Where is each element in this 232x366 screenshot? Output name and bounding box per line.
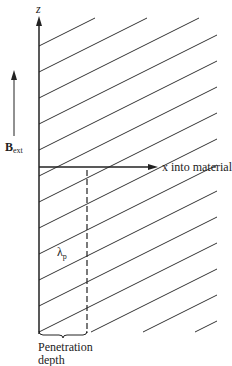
field-line [39, 139, 217, 228]
x-axis-label: x into material [162, 160, 232, 174]
bext-arrowhead [11, 70, 17, 80]
depth-brace [39, 331, 87, 338]
field-line [195, 321, 217, 332]
bext-label: Bext [5, 140, 24, 155]
field-line [39, 113, 217, 202]
field-line [39, 18, 95, 46]
penetration-depth-diagram: z x into material Bext λp Penetration de… [0, 0, 232, 366]
field-line [39, 18, 147, 72]
field-line [39, 165, 217, 254]
depth-label-line1: Penetration [38, 340, 93, 354]
field-line [39, 61, 217, 150]
field-line [39, 191, 217, 280]
field-line [39, 35, 217, 124]
field-line [39, 217, 217, 306]
field-line [91, 269, 217, 332]
field-line [39, 18, 199, 98]
z-axis-arrowhead [36, 16, 42, 26]
depth-label-line2: depth [38, 353, 65, 366]
diagram-canvas: z x into material Bext λp Penetration de… [0, 0, 232, 366]
z-axis-label: z [35, 2, 41, 16]
field-lines [39, 18, 217, 332]
lambda-p-label: λp [57, 245, 67, 261]
